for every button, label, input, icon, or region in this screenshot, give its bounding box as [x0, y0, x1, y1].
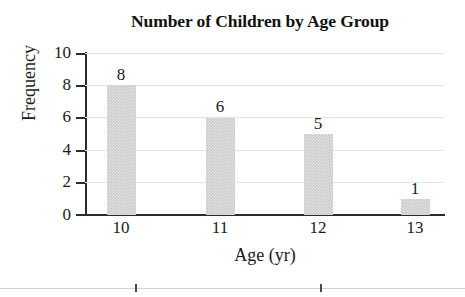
bar-value-label-age-13: 1 [411, 180, 420, 197]
bar-chart-figure: Number of Children by Age Group Frequenc… [0, 0, 465, 297]
bar-value-label-age-10: 8 [117, 66, 126, 83]
bar-age-11 [206, 118, 235, 215]
gridline-2 [85, 182, 444, 183]
x-axis-title: Age (yr) [85, 246, 445, 264]
y-tick-label-0: 0 [31, 206, 71, 223]
y-tick-label-8: 8 [31, 76, 71, 93]
y-tick-label-10: 10 [31, 44, 71, 61]
bar-value-label-age-11: 6 [216, 98, 225, 115]
page-bottom-rule [0, 288, 465, 289]
y-tick-label-2: 2 [31, 173, 71, 190]
gridline-4 [85, 150, 444, 151]
x-tick-label-10: 10 [113, 219, 130, 236]
bar-age-12 [304, 134, 333, 215]
gridline-8 [85, 85, 444, 86]
gridline-6 [85, 117, 444, 118]
page-bottom-rule-tick-left [135, 284, 137, 292]
gridline-10 [85, 53, 444, 54]
y-tick-label-4: 4 [31, 141, 71, 158]
plot-area [85, 53, 444, 215]
x-tick-label-13: 13 [407, 219, 424, 236]
x-tick-label-11: 11 [212, 219, 228, 236]
bar-age-13 [401, 199, 430, 215]
y-tick-label-6: 6 [31, 108, 71, 125]
bar-value-label-age-12: 5 [314, 115, 323, 132]
page-bottom-rule-tick-right [320, 284, 322, 292]
bar-age-10 [107, 85, 136, 215]
chart-title: Number of Children by Age Group [60, 11, 460, 32]
x-tick-label-12: 12 [310, 219, 327, 236]
